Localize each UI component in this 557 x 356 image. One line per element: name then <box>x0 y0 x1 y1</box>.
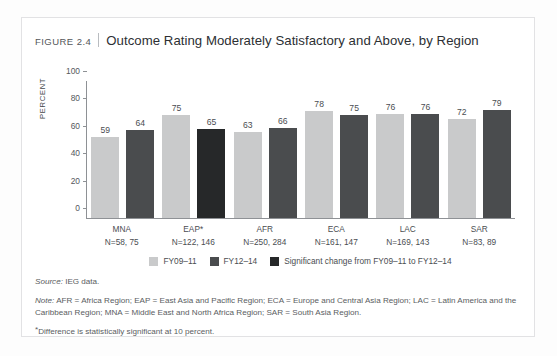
bar-group: 7676 <box>372 81 443 218</box>
significance-note-text: Difference is statistically significant … <box>38 327 214 336</box>
bar-value-label: 72 <box>457 107 467 117</box>
source-label: Source: <box>35 277 63 286</box>
bar-value-label: 63 <box>243 120 253 130</box>
category-name: SAR <box>471 224 488 234</box>
legend-swatch <box>270 257 279 266</box>
title-divider <box>98 33 99 47</box>
x-axis-category: AFRN=250, 284 <box>229 223 301 248</box>
bar-value-label: 64 <box>135 118 145 128</box>
bar[interactable]: 78 <box>305 111 333 218</box>
x-axis-category: ECAN=161, 147 <box>301 223 373 248</box>
source-text: IEG data. <box>65 277 99 286</box>
y-axis-tick-label: 100 <box>38 66 87 76</box>
bar[interactable]: 76 <box>376 114 404 218</box>
bar-value-label: 65 <box>207 117 217 127</box>
bar-group: 7565 <box>158 81 229 218</box>
category-sample-size: N=161, 147 <box>301 236 373 249</box>
category-sample-size: N=58, 75 <box>86 236 158 249</box>
bar-value-label: 76 <box>386 102 396 112</box>
bar-group: 6366 <box>230 81 301 218</box>
y-axis-tick-label: 60 <box>38 121 87 131</box>
bar[interactable]: 76 <box>411 114 439 218</box>
legend-label: FY12–14 <box>224 256 258 266</box>
bar[interactable]: 79 <box>483 110 511 218</box>
x-axis-category: LACN=169, 143 <box>372 223 444 248</box>
category-sample-size: N=169, 143 <box>372 236 444 249</box>
y-axis-tick-label: 80 <box>38 93 87 103</box>
bar-value-label: 76 <box>421 102 431 112</box>
bar-groups: 596475656366787576767279 <box>87 81 515 218</box>
bar-value-label: 79 <box>492 98 502 108</box>
figure-panel: FIGURE 2.4 Outcome Rating Moderately Sat… <box>21 17 535 337</box>
category-name: MNA <box>113 224 131 234</box>
legend-item[interactable]: Significant change from FY09–11 to FY12–… <box>270 256 451 266</box>
bar-value-label: 75 <box>172 103 182 113</box>
y-axis-title: PERCENT <box>38 107 47 119</box>
legend-swatch <box>210 257 219 266</box>
source-note: Source: IEG data. <box>35 276 521 287</box>
chart-container: PERCENT 020406080100 5964756563667875767… <box>35 63 523 263</box>
bar-group: 7875 <box>301 81 372 218</box>
category-sample-size: N=83, 89 <box>444 236 516 249</box>
bar-group: 7279 <box>444 81 515 218</box>
legend-item[interactable]: FY12–14 <box>210 256 258 266</box>
bar-value-label: 59 <box>100 125 110 135</box>
significance-note: *Difference is statistically significant… <box>35 326 521 337</box>
figure-heading: Outcome Rating Moderately Satisfactory a… <box>106 33 478 48</box>
bar[interactable]: 63 <box>234 132 262 218</box>
legend-swatch <box>149 257 158 266</box>
figure-notes: Source: IEG data. Note: AFR = Africa Reg… <box>35 276 521 338</box>
definition-note: Note: AFR = Africa Region; EAP = East As… <box>35 295 521 318</box>
note-text: AFR = Africa Region; EAP = East Asia and… <box>35 296 516 316</box>
category-name: ECA <box>328 224 345 234</box>
bar-value-label: 78 <box>314 99 324 109</box>
figure-title: FIGURE 2.4 Outcome Rating Moderately Sat… <box>35 31 479 48</box>
category-sample-size: N=250, 284 <box>229 236 301 249</box>
x-axis-category: MNAN=58, 75 <box>86 223 158 248</box>
bar[interactable]: 66 <box>269 128 297 218</box>
bar[interactable]: 75 <box>340 115 368 218</box>
bar[interactable]: 75 <box>162 115 190 218</box>
bar-value-label: 75 <box>349 103 359 113</box>
chart-legend: FY09–11FY12–14Significant change from FY… <box>86 256 515 266</box>
x-axis-category: EAP*N=122, 146 <box>158 223 230 248</box>
bar-value-label: 66 <box>278 116 288 126</box>
plot-area: 020406080100 596475656366787576767279 <box>86 81 515 219</box>
category-name: EAP* <box>183 224 203 234</box>
bar[interactable]: 72 <box>448 119 476 218</box>
bar-group: 5964 <box>87 81 158 218</box>
x-axis-category: SARN=83, 89 <box>444 223 516 248</box>
legend-label: FY09–11 <box>163 256 196 266</box>
y-axis-tick-label: 0 <box>38 203 87 213</box>
x-axis-category-labels: MNAN=58, 75EAP*N=122, 146AFRN=250, 284EC… <box>86 223 515 248</box>
figure-number-label: FIGURE 2.4 <box>35 36 91 47</box>
note-label: Note: <box>35 296 54 305</box>
bar[interactable]: 65 <box>197 129 225 218</box>
category-name: LAC <box>400 224 416 234</box>
legend-item[interactable]: FY09–11 <box>149 256 196 266</box>
y-axis-tick-label: 20 <box>38 176 87 186</box>
category-sample-size: N=122, 146 <box>158 236 230 249</box>
bar[interactable]: 64 <box>126 130 154 218</box>
category-name: AFR <box>256 224 273 234</box>
legend-label: Significant change from FY09–11 to FY12–… <box>284 256 451 266</box>
y-axis-tick-label: 40 <box>38 148 87 158</box>
bar[interactable]: 59 <box>91 137 119 218</box>
